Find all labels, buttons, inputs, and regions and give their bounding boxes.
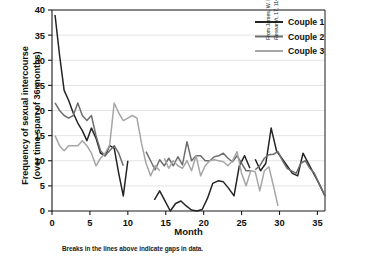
- figure-note: Breaks in the lines above indicate gaps …: [62, 245, 203, 252]
- credit-italic-2: Research: [273, 18, 279, 40]
- legend-label-1: Couple 1: [288, 17, 325, 27]
- legend-label-2: Couple 2: [288, 32, 325, 42]
- series-line-segment: [154, 156, 250, 211]
- y-axis-title-line2: (over time span of 36 months): [31, 16, 43, 216]
- figure-container: Frequency of sexual intercourse (over ti…: [0, 0, 365, 265]
- series-line-segment: [164, 152, 278, 206]
- series-line-segment: [55, 103, 160, 176]
- source-credit-line2: Research, 17, 114–132. Reprinted by perm…: [273, 0, 281, 40]
- y-axis-title-line1: Frequency of sexual intercourse: [20, 16, 32, 216]
- legend-label-3: Couple 3: [288, 46, 325, 56]
- series-line-segment: [255, 152, 325, 196]
- source-credit-line1: From James, W. H. (1981). The honeymoon …: [265, 0, 273, 40]
- series-1: [55, 15, 325, 211]
- source-credit: From James, W. H. (1981). The honeymoon …: [265, 0, 280, 40]
- y-axis-title: Frequency of sexual intercourse (over ti…: [20, 16, 43, 216]
- series-2: [55, 103, 325, 196]
- y-tick-label: 40: [35, 5, 45, 15]
- series-line-segment: [55, 15, 128, 196]
- credit-text-1: From James, W. H. (1981). The honeymoon …: [265, 0, 271, 40]
- credit-text-2: , 17, 114–132. Reprinted by permission o…: [273, 0, 279, 18]
- x-axis-title: Month: [52, 226, 325, 237]
